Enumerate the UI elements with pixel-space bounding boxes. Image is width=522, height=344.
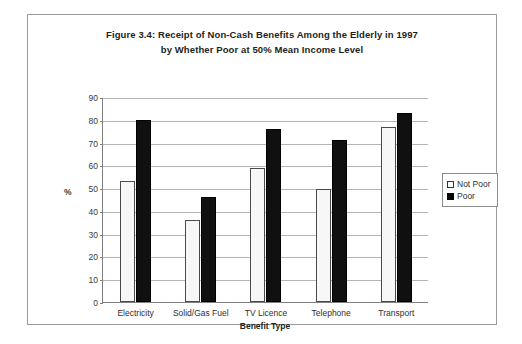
bar-poor — [266, 129, 281, 302]
y-axis-tick-label: 10 — [89, 275, 98, 285]
bar-not-poor — [185, 220, 200, 302]
figure-frame: Figure 3.4: Receipt of Non-Cash Benefits… — [27, 14, 497, 325]
chart-legend: Not PoorPoor — [442, 173, 498, 207]
chart-title-line-1: Figure 3.4: Receipt of Non-Cash Benefits… — [28, 27, 496, 42]
y-axis-tick-label: 0 — [93, 298, 98, 308]
bar-group: TV Licence — [233, 98, 298, 302]
y-axis-tick-label: 30 — [89, 230, 98, 240]
bar-group: Telephone — [299, 98, 364, 302]
y-axis-tick-label: 80 — [89, 116, 98, 126]
x-axis-category-label: TV Licence — [233, 308, 298, 318]
bar-poor — [201, 197, 216, 302]
y-axis-tick-label: 70 — [89, 139, 98, 149]
legend-entry: Not Poor — [447, 178, 491, 190]
x-axis-category-label: Telephone — [299, 308, 364, 318]
y-axis-tick-label: 40 — [89, 207, 98, 217]
y-axis-tick-label: 20 — [89, 252, 98, 262]
bar-group: Electricity — [103, 98, 168, 302]
bar-group: Transport — [364, 98, 429, 302]
legend-label: Not Poor — [457, 179, 491, 189]
x-axis-category-label: Solid/Gas Fuel — [168, 308, 233, 318]
y-axis-title: % — [64, 187, 72, 197]
x-axis-title: Benefit Type — [102, 321, 428, 331]
x-axis-category-label: Transport — [364, 308, 429, 318]
chart-title: Figure 3.4: Receipt of Non-Cash Benefits… — [28, 27, 496, 57]
y-axis-tick-mark — [100, 303, 103, 304]
bar-poor — [332, 140, 347, 302]
bar-poor — [136, 120, 151, 302]
y-axis-tick-label: 90 — [89, 93, 98, 103]
chart-title-line-2: by Whether Poor at 50% Mean Income Level — [28, 42, 496, 57]
bar-group: Solid/Gas Fuel — [168, 98, 233, 302]
bar-not-poor — [381, 127, 396, 302]
hollow-square-swatch — [447, 181, 454, 188]
bar-not-poor — [316, 189, 331, 302]
bar-not-poor — [120, 181, 135, 302]
x-axis-category-label: Electricity — [103, 308, 168, 318]
bar-not-poor — [250, 168, 265, 302]
legend-entry: Poor — [447, 190, 491, 202]
filled-square-swatch — [447, 193, 454, 200]
legend-label: Poor — [457, 191, 475, 201]
plot-area: 0102030405060708090ElectricitySolid/Gas … — [102, 98, 428, 303]
bar-poor — [397, 113, 412, 302]
y-axis-tick-label: 50 — [89, 184, 98, 194]
y-axis-tick-label: 60 — [89, 161, 98, 171]
